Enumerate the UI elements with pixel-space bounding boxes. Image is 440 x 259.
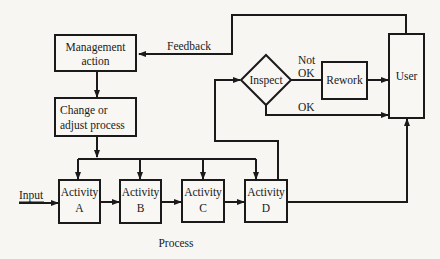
activity-d-label-1: Activity <box>247 186 285 199</box>
management-label-2: action <box>81 55 109 67</box>
inspect-decision: Inspect <box>241 55 291 105</box>
not-ok-label-2: OK <box>298 67 315 79</box>
user-box: User <box>389 34 424 118</box>
not-ok-label-1: Not <box>298 54 316 66</box>
ok-arrow <box>266 105 388 115</box>
rework-box: Rework <box>322 62 367 99</box>
activity-c-box: Activity C <box>182 180 224 222</box>
activity-b-label-1: Activity <box>122 186 160 199</box>
rework-label: Rework <box>326 74 363 86</box>
activity-b-box: Activity B <box>120 180 161 223</box>
change-label-1: Change or <box>60 104 108 117</box>
feedback-label: Feedback <box>167 40 211 52</box>
process-caption: Process <box>158 237 194 249</box>
inspect-label: Inspect <box>249 74 283 87</box>
management-action-box: Management action <box>55 35 136 71</box>
activity-d-box: Activity D <box>245 180 287 222</box>
process-diagram: Feedback Management action Change or adj… <box>0 0 440 259</box>
change-label-2: adjust process <box>60 119 125 132</box>
activity-b-label-2: B <box>137 202 145 214</box>
activity-a-label-2: A <box>75 202 84 214</box>
activity-a-label-1: Activity <box>61 186 99 199</box>
input-label: Input <box>19 189 44 202</box>
activity-a-box: Activity A <box>59 180 100 223</box>
management-label-1: Management <box>65 41 126 54</box>
change-process-box: Change or adjust process <box>55 98 136 136</box>
ok-label: OK <box>298 101 315 113</box>
d-to-user-arrow <box>287 119 407 202</box>
activity-c-label-2: C <box>199 202 207 214</box>
activity-d-label-2: D <box>262 202 270 214</box>
user-label: User <box>396 70 418 82</box>
activity-c-label-1: Activity <box>184 186 222 199</box>
